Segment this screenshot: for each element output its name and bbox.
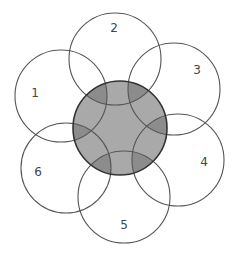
flower-venn-diagram: 123456 [0,0,234,258]
petal-label-1: 1 [31,86,39,100]
petal-label-2: 2 [110,21,118,35]
petal-label-3: 3 [193,63,201,77]
petal-label-6: 6 [34,165,42,179]
petal-label-5: 5 [120,218,128,232]
petal-label-4: 4 [200,155,208,169]
